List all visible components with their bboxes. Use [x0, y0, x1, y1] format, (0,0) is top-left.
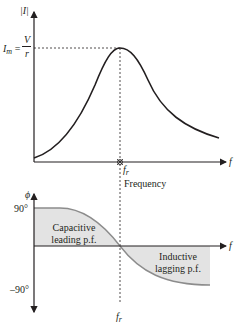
upper-resonance-sub: r [126, 168, 129, 177]
capacitive-region-label: Capacitive leading p.f. [42, 222, 106, 246]
diagram-canvas [0, 0, 244, 326]
tick-90: 90° [14, 203, 28, 214]
peak-frac-num: V [24, 34, 30, 45]
peak-label-sub: m [6, 47, 12, 56]
capacitive-line1: Capacitive [42, 222, 106, 234]
lower-x-axis-label: f [229, 240, 232, 251]
lower-resonance-label: fr [116, 311, 122, 323]
inductive-region-label: Inductive lagging p.f. [146, 251, 210, 275]
peak-frac-den: r [25, 48, 29, 59]
lower-resonance-sub: r [119, 315, 122, 324]
frequency-caption: Frequency [124, 178, 166, 189]
peak-frac-bar [22, 46, 31, 47]
upper-y-axis-label: |I| [20, 5, 29, 16]
capacitive-line2: leading p.f. [42, 234, 106, 246]
peak-label: Im = [3, 43, 20, 55]
upper-resonance-label: fr [123, 164, 129, 176]
peak-label-eq: = [15, 43, 21, 54]
tick-minus-90: –90° [10, 284, 29, 295]
lower-y-axis-label: ϕ [25, 189, 30, 200]
inductive-line1: Inductive [146, 251, 210, 263]
upper-x-axis-label: f [229, 156, 232, 167]
inductive-line2: lagging p.f. [146, 263, 210, 275]
resonance-curve [34, 48, 219, 158]
